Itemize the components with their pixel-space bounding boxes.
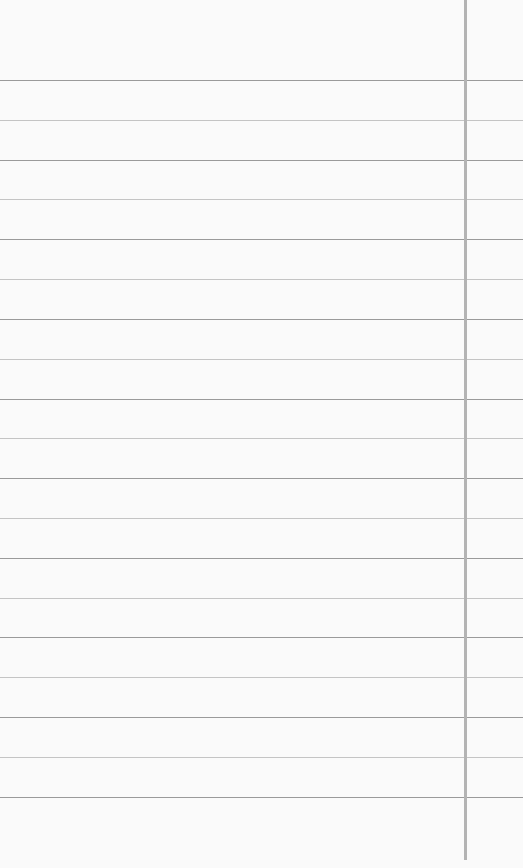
lined-paper [0,0,523,868]
ruled-line [0,757,523,758]
ruled-line [0,239,523,240]
ruled-line [0,677,523,678]
ruled-line [0,637,523,638]
ruled-line [0,518,523,519]
ruled-line [0,598,523,599]
ruled-line [0,478,523,479]
margin-line [464,0,467,860]
ruled-line [0,359,523,360]
ruled-line [0,199,523,200]
ruled-line [0,279,523,280]
ruled-line [0,120,523,121]
ruled-line [0,160,523,161]
ruled-line [0,399,523,400]
ruled-line [0,558,523,559]
ruled-line [0,797,523,798]
ruled-line [0,717,523,718]
ruled-line [0,438,523,439]
ruled-line [0,319,523,320]
ruled-line [0,80,523,81]
